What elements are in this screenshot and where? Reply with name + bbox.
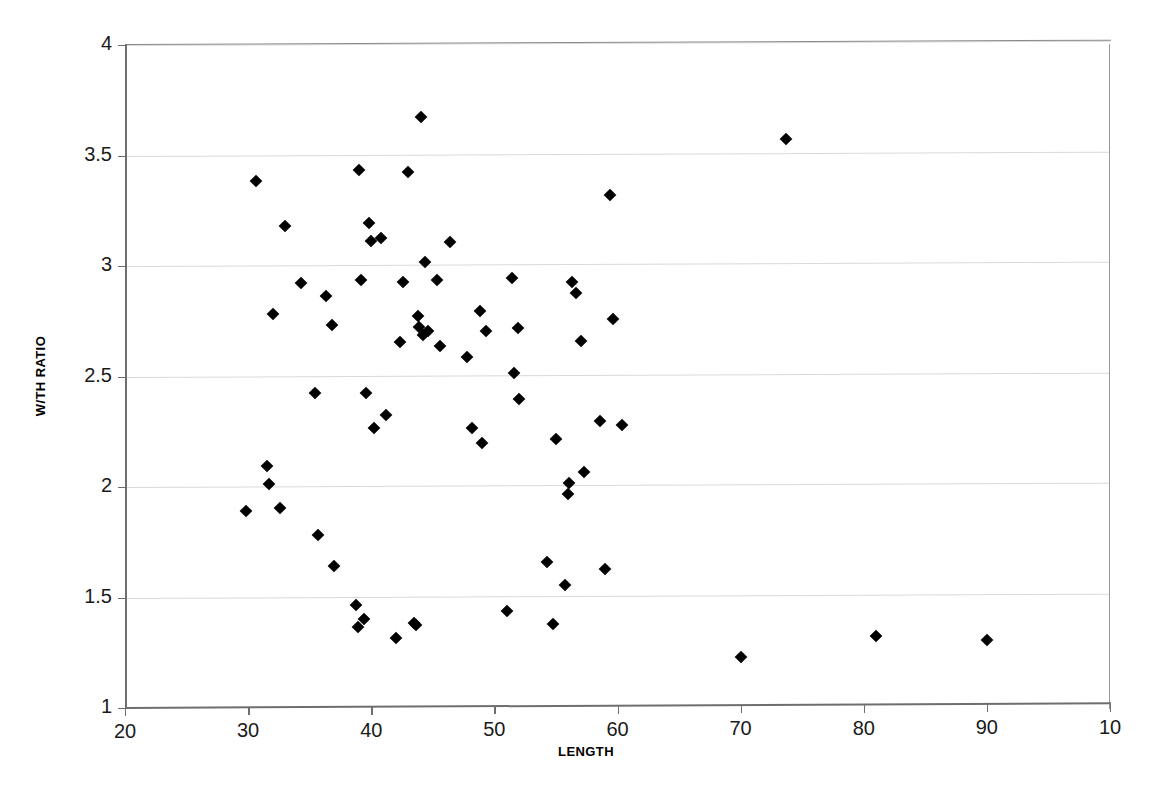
x-tick-label: 80 [853, 717, 875, 740]
x-tick [1110, 704, 1111, 712]
y-tick-label: 3.5 [84, 144, 112, 164]
y-tick-label: 1 [101, 696, 112, 716]
plot-border-right [1109, 44, 1110, 709]
x-tick [494, 706, 495, 714]
y-tick-label: 2 [101, 475, 112, 495]
y-tick [118, 266, 126, 267]
x-tick-label: 10 [1099, 716, 1121, 739]
y-tick [118, 45, 126, 46]
x-tick-label: 40 [360, 719, 382, 742]
x-tick-label: 70 [730, 717, 752, 740]
y-tick-label: 1.5 [84, 586, 112, 606]
x-tick [125, 708, 126, 716]
x-tick-label: 90 [976, 716, 998, 739]
x-tick-label: 50 [483, 718, 505, 741]
y-axis-title: W/TH RATIO [33, 336, 48, 416]
scatter-chart: 11.522.533.54 203040506070809010 LENGTH … [0, 0, 1172, 793]
x-tick-label: 20 [114, 720, 136, 743]
x-tick-label: 30 [237, 719, 259, 742]
y-tick-label: 4 [101, 33, 112, 53]
x-tick [864, 705, 865, 713]
y-tick-label: 3 [101, 254, 112, 274]
x-tick [371, 707, 372, 715]
y-tick-label: 2.5 [84, 365, 112, 385]
x-tick-label: 60 [606, 718, 628, 741]
x-tick [618, 706, 619, 714]
y-tick [118, 598, 126, 599]
y-tick [118, 487, 126, 488]
x-tick [987, 704, 988, 712]
x-tick [741, 705, 742, 713]
y-tick [118, 377, 126, 378]
x-axis-title: LENGTH [0, 744, 1172, 759]
x-tick [248, 707, 249, 715]
y-tick [118, 156, 126, 157]
